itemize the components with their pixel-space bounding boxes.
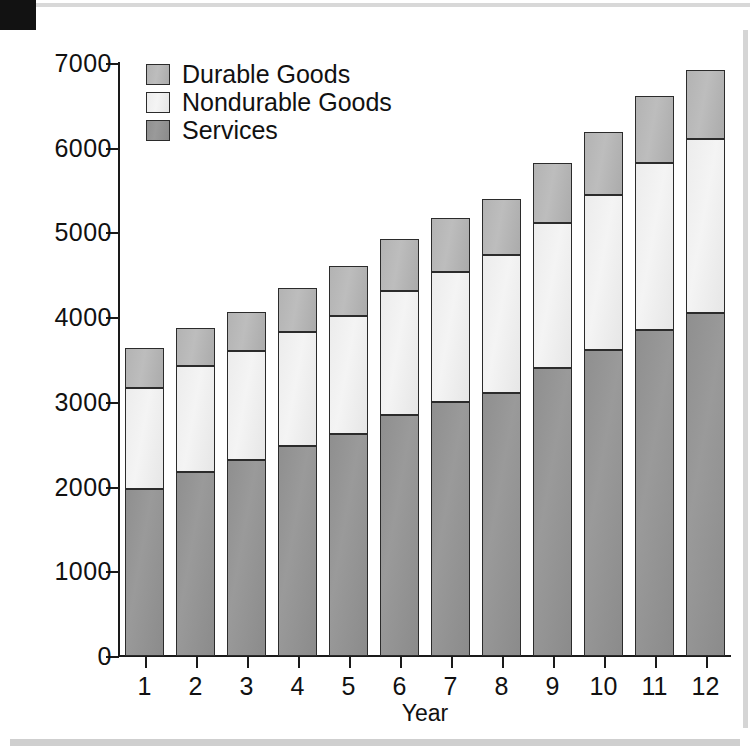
page-canvas: Billions of Dollars Year 010002000300040…	[0, 0, 754, 754]
legend-item-services: Services	[146, 116, 392, 144]
bar-segment-nondurable-goods[interactable]	[329, 316, 369, 434]
bar-segment-nondurable-goods[interactable]	[125, 388, 165, 489]
bar-segment-durable-goods[interactable]	[176, 328, 216, 366]
y-axis-tick-label: 5000	[54, 218, 112, 247]
bar-segment-services[interactable]	[176, 472, 216, 656]
bar-segment-durable-goods[interactable]	[278, 288, 318, 333]
bar-column[interactable]	[329, 63, 369, 656]
bar-segment-nondurable-goods[interactable]	[176, 366, 216, 472]
x-axis-tick-label: 6	[393, 672, 407, 701]
services-swatch	[146, 120, 170, 141]
x-axis-tick-label: 4	[291, 672, 305, 701]
legend-item-durable-goods: Durable Goods	[146, 60, 392, 88]
x-axis-tick-mark	[247, 656, 249, 668]
x-axis-tick-label: 10	[590, 672, 618, 701]
bar-column[interactable]	[176, 63, 216, 656]
y-axis-tick-label: 4000	[54, 303, 112, 332]
y-axis-tick-label: 3000	[54, 387, 112, 416]
bar-column[interactable]	[635, 63, 675, 656]
bar-segment-services[interactable]	[329, 434, 369, 656]
chart-legend: Durable Goods Nondurable Goods Services	[146, 60, 392, 144]
x-axis-tick-label: 2	[189, 672, 203, 701]
x-axis-tick-label: 8	[495, 672, 509, 701]
x-axis-tick-mark	[655, 656, 657, 668]
bar-column[interactable]	[380, 63, 420, 656]
y-axis-tick-label: 7000	[54, 49, 112, 78]
bar-segment-durable-goods[interactable]	[329, 266, 369, 316]
x-axis-tick-mark	[553, 656, 555, 668]
x-axis-tick-label: 7	[444, 672, 458, 701]
bar-segment-durable-goods[interactable]	[380, 239, 420, 291]
x-axis-tick-mark	[196, 656, 198, 668]
bar-column[interactable]	[278, 63, 318, 656]
nondurable-goods-swatch	[146, 92, 170, 113]
legend-item-nondurable-goods: Nondurable Goods	[146, 88, 392, 116]
bar-segment-services[interactable]	[431, 402, 471, 656]
legend-label-services: Services	[182, 116, 278, 145]
x-axis-tick-mark	[451, 656, 453, 668]
bar-segment-nondurable-goods[interactable]	[635, 163, 675, 330]
x-axis-tick-mark	[349, 656, 351, 668]
bar-segment-nondurable-goods[interactable]	[584, 195, 624, 350]
bar-segment-durable-goods[interactable]	[227, 312, 267, 351]
x-axis-title: Year	[119, 700, 731, 727]
y-axis-tick-label: 2000	[54, 472, 112, 501]
x-axis-tick-label: 12	[692, 672, 720, 701]
y-axis-tick-label: 1000	[54, 557, 112, 586]
bar-segment-nondurable-goods[interactable]	[431, 272, 471, 402]
bar-segment-durable-goods[interactable]	[431, 218, 471, 272]
bar-segment-nondurable-goods[interactable]	[227, 351, 267, 460]
bar-segment-durable-goods[interactable]	[584, 132, 624, 196]
bar-column[interactable]	[431, 63, 471, 656]
bar-segment-services[interactable]	[635, 330, 675, 656]
x-axis-tick-mark	[145, 656, 147, 668]
bar-column[interactable]	[533, 63, 573, 656]
y-axis-tick-label: 0	[98, 642, 112, 671]
bar-segment-nondurable-goods[interactable]	[380, 291, 420, 416]
bar-segment-services[interactable]	[125, 489, 165, 656]
bar-segment-durable-goods[interactable]	[686, 70, 726, 139]
x-axis-tick-label: 1	[138, 672, 152, 701]
bar-segment-nondurable-goods[interactable]	[482, 255, 522, 392]
bar-column[interactable]	[125, 63, 165, 656]
bar-segment-nondurable-goods[interactable]	[533, 223, 573, 368]
x-axis-tick-mark	[706, 656, 708, 668]
stacked-bar-chart: Billions of Dollars Year 010002000300040…	[0, 0, 754, 754]
bar-segment-services[interactable]	[380, 415, 420, 656]
bar-segment-services[interactable]	[227, 460, 267, 656]
bar-segment-nondurable-goods[interactable]	[278, 332, 318, 446]
x-axis-tick-mark	[604, 656, 606, 668]
x-axis-tick-mark	[298, 656, 300, 668]
bar-segment-nondurable-goods[interactable]	[686, 139, 726, 313]
bar-segment-durable-goods[interactable]	[533, 163, 573, 223]
bar-column[interactable]	[584, 63, 624, 656]
bar-column[interactable]	[482, 63, 522, 656]
durable-goods-swatch	[146, 64, 170, 85]
bar-column[interactable]	[227, 63, 267, 656]
x-axis-tick-mark	[400, 656, 402, 668]
bar-segment-services[interactable]	[278, 446, 318, 656]
bar-segment-services[interactable]	[686, 313, 726, 656]
bar-segment-services[interactable]	[584, 350, 624, 656]
plot-area: 0100020003000400050006000700012345678910…	[119, 63, 731, 656]
x-axis-tick-label: 9	[546, 672, 560, 701]
x-axis-tick-label: 5	[342, 672, 356, 701]
bar-segment-durable-goods[interactable]	[482, 199, 522, 256]
bar-segment-services[interactable]	[482, 393, 522, 656]
x-axis-tick-label: 11	[642, 672, 668, 701]
bar-segment-durable-goods[interactable]	[635, 96, 675, 163]
legend-label-durable-goods: Durable Goods	[182, 60, 350, 89]
x-axis-tick-label: 3	[240, 672, 254, 701]
legend-label-nondurable-goods: Nondurable Goods	[182, 88, 392, 117]
bar-column[interactable]	[686, 63, 726, 656]
y-axis-tick-label: 6000	[54, 133, 112, 162]
x-axis-tick-mark	[502, 656, 504, 668]
bar-segment-durable-goods[interactable]	[125, 348, 165, 389]
bar-segment-services[interactable]	[533, 368, 573, 656]
